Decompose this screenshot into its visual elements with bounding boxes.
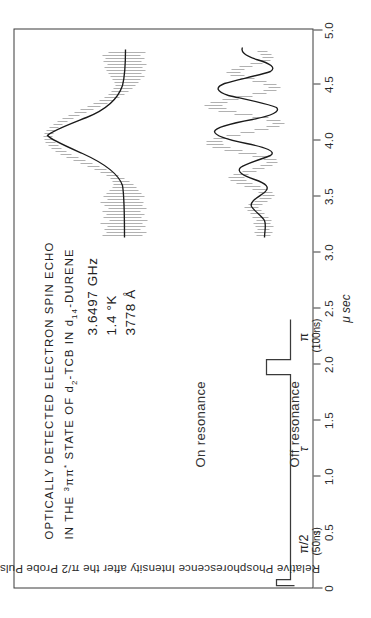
on-resonance-noise (43, 52, 147, 235)
x-tick-5 (313, 307, 320, 308)
x-ticklabel-0: 0 (322, 585, 334, 592)
x-ticklabel-2: 1.0 (322, 468, 334, 485)
y-axis-label: Relative Phosphorescence Intensity after… (0, 562, 326, 574)
x-ticklabel-10: 5.0 (322, 22, 334, 39)
x-ticklabel-4: 2.0 (322, 356, 334, 373)
x-tick-1 (313, 531, 320, 532)
pi-label: π (296, 332, 310, 341)
x-tick-0 (313, 587, 322, 588)
x-ticklabel-3: 1.5 (322, 412, 334, 429)
x-ticklabel-6: 3.0 (322, 244, 334, 261)
x-tick-2 (313, 475, 320, 476)
x-tick-6 (313, 251, 320, 252)
x-tick-8 (313, 139, 320, 140)
x-tick-7 (313, 195, 320, 196)
x-tick-10 (313, 29, 322, 30)
on-resonance-trace (47, 49, 125, 237)
pi-half-label: π/2 (296, 534, 310, 553)
x-tick-4 (313, 363, 320, 364)
x-axis-label: μ sec (338, 28, 352, 588)
x-ticklabel-5: 2.5 (322, 300, 334, 317)
figure-stage: OPTICALLY DETECTED ELECTRON SPIN ECHO IN… (0, 0, 371, 618)
x-ticklabel-8: 4.0 (322, 132, 334, 149)
x-ticklabel-7: 3.5 (322, 188, 334, 205)
tau-label: τ (296, 446, 310, 451)
x-tick-3 (313, 419, 320, 420)
pulse-labels: π/2 (50ns) τ π (100ns) (252, 0, 322, 557)
x-tick-9 (313, 83, 320, 84)
x-ticklabel-9: 4.5 (322, 76, 334, 93)
plot-frame: OPTICALLY DETECTED ELECTRON SPIN ECHO IN… (13, 28, 313, 588)
x-ticklabel-1: 0.5 (322, 524, 334, 541)
